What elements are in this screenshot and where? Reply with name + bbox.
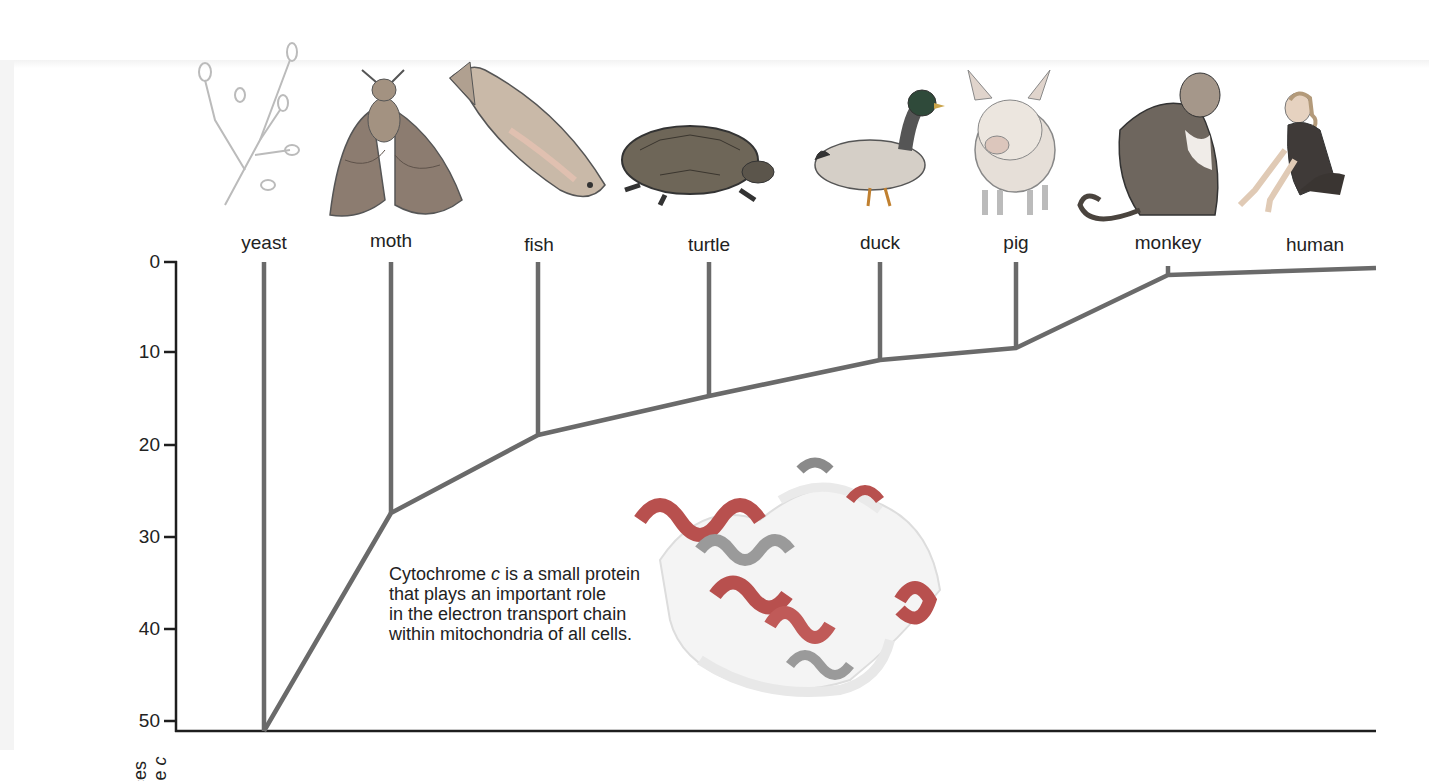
cytochrome-c-protein-illustration	[640, 463, 940, 693]
caption-line1-prefix: Cytochrome	[389, 564, 491, 584]
caption-line1-suffix: is a small protein	[500, 564, 640, 584]
caption-line3: in the electron transport chain	[389, 604, 640, 624]
phylogenetic-tree-chart	[0, 0, 1429, 781]
caption-italic-c: c	[491, 564, 500, 584]
caption-line4: within mitochondria of all cells.	[389, 624, 640, 644]
cytochrome-caption: Cytochrome c is a small protein that pla…	[389, 564, 640, 644]
caption-line2: that plays an important role	[389, 584, 640, 604]
